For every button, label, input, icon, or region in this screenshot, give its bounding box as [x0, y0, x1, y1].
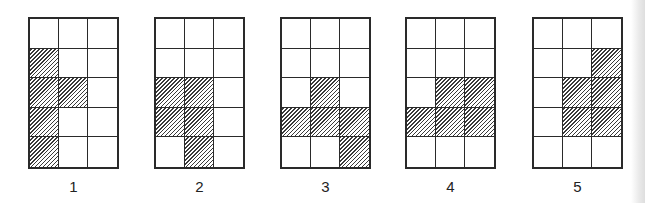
empty-cell: [534, 19, 563, 49]
shaded-cell: [465, 78, 494, 108]
empty-cell: [311, 19, 340, 49]
shaded-cell: [185, 137, 214, 167]
shaded-cell: [563, 108, 592, 138]
shaded-cell: [185, 78, 214, 108]
empty-cell: [156, 137, 185, 167]
empty-cell: [465, 137, 494, 167]
empty-cell: [88, 49, 117, 79]
empty-cell: [59, 49, 88, 79]
grid-option-3: [280, 17, 371, 169]
empty-cell: [88, 19, 117, 49]
empty-cell: [59, 108, 88, 138]
shaded-cell: [30, 108, 59, 138]
empty-cell: [592, 137, 621, 167]
empty-cell: [340, 78, 369, 108]
empty-cell: [214, 108, 243, 138]
shaded-cell: [30, 137, 59, 167]
shaded-cell: [156, 78, 185, 108]
empty-cell: [156, 19, 185, 49]
empty-cell: [436, 137, 465, 167]
empty-cell: [465, 19, 494, 49]
grid-option-4: [405, 17, 496, 169]
shaded-cell: [436, 78, 465, 108]
shaded-cell: [311, 108, 340, 138]
empty-cell: [465, 49, 494, 79]
option-label: 4: [405, 178, 496, 195]
empty-cell: [436, 19, 465, 49]
shaded-cell: [436, 108, 465, 138]
empty-cell: [534, 78, 563, 108]
empty-cell: [156, 49, 185, 79]
option-4: 4: [405, 17, 497, 169]
shaded-cell: [563, 78, 592, 108]
empty-cell: [282, 19, 311, 49]
empty-cell: [88, 137, 117, 167]
empty-cell: [59, 137, 88, 167]
empty-cell: [311, 49, 340, 79]
option-label: 3: [280, 178, 371, 195]
shaded-cell: [156, 108, 185, 138]
shaded-cell: [592, 108, 621, 138]
empty-cell: [534, 137, 563, 167]
empty-cell: [282, 137, 311, 167]
empty-cell: [340, 19, 369, 49]
empty-cell: [563, 19, 592, 49]
option-label: 1: [28, 178, 119, 195]
shaded-cell: [592, 49, 621, 79]
empty-cell: [282, 78, 311, 108]
empty-cell: [185, 49, 214, 79]
empty-cell: [185, 19, 214, 49]
empty-cell: [592, 19, 621, 49]
empty-cell: [436, 49, 465, 79]
option-3: 3: [280, 17, 372, 169]
grid-option-2: [154, 17, 245, 169]
empty-cell: [214, 19, 243, 49]
option-label: 2: [154, 178, 245, 195]
shaded-cell: [340, 108, 369, 138]
shaded-cell: [407, 108, 436, 138]
shaded-cell: [311, 78, 340, 108]
shaded-cell: [282, 108, 311, 138]
shaded-cell: [592, 78, 621, 108]
empty-cell: [563, 49, 592, 79]
shaded-cell: [185, 108, 214, 138]
option-label: 5: [532, 178, 623, 195]
empty-cell: [214, 49, 243, 79]
option-1: 1: [28, 17, 120, 169]
shaded-cell: [30, 78, 59, 108]
empty-cell: [214, 78, 243, 108]
option-5: 5: [532, 17, 624, 169]
grid-option-5: [532, 17, 623, 169]
empty-cell: [282, 49, 311, 79]
empty-cell: [311, 137, 340, 167]
empty-cell: [407, 49, 436, 79]
empty-cell: [407, 137, 436, 167]
empty-cell: [340, 49, 369, 79]
empty-cell: [534, 108, 563, 138]
shaded-cell: [465, 108, 494, 138]
empty-cell: [88, 78, 117, 108]
grid-option-1: [28, 17, 119, 169]
empty-cell: [214, 137, 243, 167]
shaded-cell: [59, 78, 88, 108]
empty-cell: [30, 19, 59, 49]
empty-cell: [563, 137, 592, 167]
empty-cell: [407, 78, 436, 108]
empty-cell: [407, 19, 436, 49]
scan-edge-shadow: [631, 0, 645, 203]
shaded-cell: [30, 49, 59, 79]
empty-cell: [59, 19, 88, 49]
empty-cell: [88, 108, 117, 138]
shaded-cell: [340, 137, 369, 167]
option-2: 2: [154, 17, 246, 169]
empty-cell: [534, 49, 563, 79]
